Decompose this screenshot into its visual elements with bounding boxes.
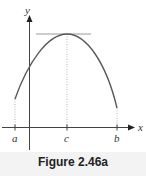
function-curve-drawn xyxy=(15,34,117,108)
figure-caption: Figure 2.46a xyxy=(0,155,146,169)
tick-label-a: a xyxy=(12,132,18,144)
x-axis-label: x xyxy=(137,121,143,133)
tick-label-b: b xyxy=(114,132,120,144)
graph: y x a c b xyxy=(0,0,146,150)
y-axis-arrow-icon xyxy=(27,15,33,22)
function-curve xyxy=(15,17,67,99)
tick-label-c: c xyxy=(64,132,69,144)
x-axis-arrow-icon xyxy=(128,125,135,131)
y-axis-label: y xyxy=(24,4,30,16)
